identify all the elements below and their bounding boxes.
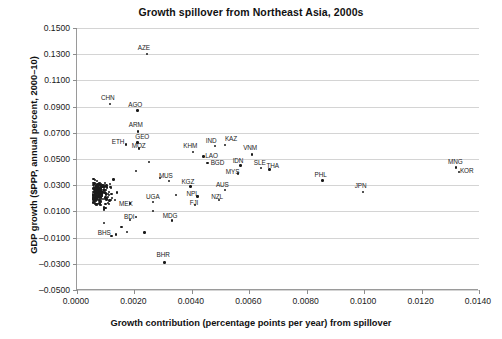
- x-tick-mark: [134, 290, 135, 294]
- data-point: [94, 179, 96, 181]
- y-tick-label: 0.0900: [14, 102, 70, 112]
- x-axis-title: Growth contribution (percentage points p…: [0, 318, 502, 328]
- point-label-mng: MNG: [448, 159, 463, 165]
- data-point: [114, 199, 116, 201]
- x-tick-mark: [77, 290, 78, 294]
- plot-area: AZECHNAGOARMGEOETHMOZINDKAZKHMLAOBGDVNMI…: [76, 28, 478, 290]
- data-point: [135, 170, 137, 172]
- data-point-ago: [136, 109, 138, 111]
- data-point: [104, 185, 106, 187]
- point-label-idn: IDN: [233, 158, 244, 164]
- point-label-ind: IND: [206, 138, 217, 144]
- data-point-kgz: [189, 185, 191, 187]
- data-point-khm: [192, 151, 194, 153]
- point-label-aus: AUS: [216, 182, 229, 188]
- data-point-vnm: [251, 153, 253, 155]
- point-label-bgd: BGD: [211, 160, 225, 166]
- data-point: [95, 204, 97, 206]
- data-point: [92, 187, 94, 189]
- data-point: [148, 161, 150, 163]
- y-gridline: [77, 28, 479, 29]
- x-tick-mark: [364, 290, 365, 294]
- point-label-kgz: KGZ: [181, 179, 194, 185]
- y-gridline: [77, 54, 479, 55]
- y-tick-mark: [73, 133, 77, 134]
- chart-title: Growth spillover from Northeast Asia, 20…: [0, 6, 502, 18]
- y-tick-mark: [73, 185, 77, 186]
- data-point: [94, 189, 96, 191]
- data-point-mdg: [171, 219, 173, 221]
- y-gridline: [77, 264, 479, 265]
- point-label-npl: NPL: [187, 191, 199, 197]
- y-tick-mark: [73, 238, 77, 239]
- y-tick-mark: [73, 80, 77, 81]
- y-gridline: [77, 80, 479, 81]
- data-point: [92, 184, 94, 186]
- point-label-bhs: BHS: [98, 230, 111, 236]
- data-point: [112, 178, 114, 180]
- y-tick-label: 0.1100: [14, 75, 70, 85]
- data-point: [103, 222, 105, 224]
- y-gridline: [77, 211, 479, 212]
- y-gridline: [77, 238, 479, 239]
- data-point-mng: [455, 166, 457, 168]
- data-point-aus: [224, 189, 226, 191]
- data-point: [94, 194, 96, 196]
- data-point-bhs: [115, 233, 117, 235]
- point-label-kor: KOR: [460, 168, 474, 174]
- data-point-bhr: [163, 261, 165, 263]
- y-gridline: [77, 159, 479, 160]
- data-point: [103, 206, 105, 208]
- y-tick-label: –0.0500: [14, 285, 70, 295]
- point-label-geo: GEO: [135, 134, 149, 140]
- data-point: [100, 186, 102, 188]
- point-label-uga: UGA: [146, 194, 160, 200]
- data-point: [120, 226, 122, 228]
- point-label-ago: AGO: [128, 102, 142, 108]
- data-point: [105, 198, 107, 200]
- x-tick-mark: [422, 290, 423, 294]
- data-point: [109, 186, 111, 188]
- y-tick-label: 0.0100: [14, 206, 70, 216]
- y-tick-label: 0.0500: [14, 154, 70, 164]
- x-tick-mark: [479, 290, 480, 294]
- point-label-nzl: NZL: [211, 194, 223, 200]
- point-label-fji: FJI: [190, 200, 199, 206]
- y-tick-label: –0.0100: [14, 233, 70, 243]
- y-tick-mark: [73, 264, 77, 265]
- y-tick-mark: [73, 159, 77, 160]
- data-point: [126, 231, 128, 233]
- data-point: [110, 193, 112, 195]
- y-tick-mark: [73, 107, 77, 108]
- point-label-kaz: KAZ: [225, 136, 237, 142]
- data-point: [101, 195, 103, 197]
- point-label-bdi: BDI: [124, 214, 134, 220]
- data-point: [135, 216, 137, 218]
- data-point-bgd: [206, 162, 208, 164]
- data-point-phl: [321, 179, 323, 181]
- data-point: [107, 196, 109, 198]
- point-label-arm: ARM: [129, 122, 143, 128]
- data-point-jpn: [362, 191, 364, 193]
- y-tick-mark: [73, 54, 77, 55]
- data-point-idn: [239, 164, 241, 166]
- point-label-mys: MYS: [226, 169, 240, 175]
- x-tick-mark: [307, 290, 308, 294]
- point-label-khm: KHM: [183, 143, 197, 149]
- y-tick-label: 0.1500: [14, 23, 70, 33]
- data-point-lao: [202, 155, 204, 157]
- data-point: [175, 194, 177, 196]
- point-label-tha: THA: [266, 163, 278, 169]
- x-tick-mark: [192, 290, 193, 294]
- data-point-eth: [125, 143, 127, 145]
- data-point-kaz: [224, 144, 226, 146]
- point-label-jpn: JPN: [355, 183, 367, 189]
- point-label-vnm: VNM: [243, 145, 257, 151]
- point-label-eth: ETH: [112, 139, 124, 145]
- point-label-mex: MEX: [119, 201, 133, 207]
- data-point: [110, 199, 112, 201]
- point-label-aze: AZE: [138, 45, 150, 51]
- x-tick-label: 0.0140: [443, 296, 502, 306]
- point-label-bhr: BHR: [157, 252, 170, 258]
- x-tick-mark: [249, 290, 250, 294]
